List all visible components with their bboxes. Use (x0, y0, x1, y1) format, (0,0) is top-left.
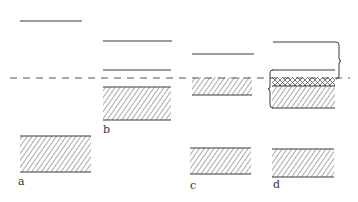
panel-b-hatched-block (103, 87, 171, 120)
panel-c-lower-hatched-block (190, 148, 251, 174)
panel-c-upper-hatched-strip (192, 77, 252, 95)
panel-d-lower-hatched-block (272, 149, 334, 177)
panel-b (103, 41, 172, 120)
panel-label-c: c (190, 180, 196, 191)
panel-a-hatched-block (20, 136, 91, 172)
layer-diagram (0, 0, 358, 202)
panel-d (268, 42, 341, 177)
panel-a (20, 21, 91, 172)
panel-d-upper-hatched-block (272, 86, 335, 108)
panel-d-crosshatch-strip (272, 77, 335, 86)
panel-label-a: a (18, 176, 25, 187)
panel-label-d: d (273, 179, 280, 190)
panel-d-right-brace (336, 42, 341, 79)
panel-label-b: b (103, 124, 110, 135)
panel-c (190, 54, 254, 174)
